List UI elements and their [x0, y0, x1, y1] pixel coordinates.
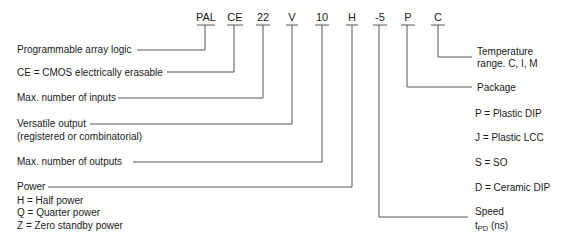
leader-ce: [167, 25, 234, 72]
tpd-unit: (ns): [488, 220, 508, 231]
code-inputs: 22: [257, 11, 269, 23]
label-speed-detail: tPD (ns): [475, 220, 508, 233]
code-temperature: C: [434, 11, 442, 23]
power-option-z: Z = Zero standby power: [17, 220, 124, 231]
leader-speed: [379, 25, 468, 217]
right-labels: Temperature range. C, I, M Package P = P…: [475, 46, 551, 233]
label-output-type: Versatile output: [17, 118, 86, 129]
part-code: PAL CE 22 V 10 H -5 P C: [196, 11, 442, 23]
tpd-subscript: PD: [478, 224, 489, 233]
code-speed: -5: [375, 11, 385, 23]
code-outputs: 10: [316, 11, 328, 23]
label-output-type-detail: (registered or combinatorial): [17, 131, 142, 142]
code-ce: CE: [227, 11, 242, 23]
label-power: Power: [17, 181, 46, 192]
code-package: P: [404, 11, 411, 23]
leader-pal: [137, 25, 205, 50]
code-output-type: V: [288, 11, 296, 23]
label-temperature-detail: range. C, I, M: [477, 58, 538, 69]
label-package: Package: [477, 82, 516, 93]
package-option-d: D = Ceramic DIP: [475, 182, 551, 193]
power-option-h: H = Half power: [17, 195, 84, 206]
label-speed: Speed: [475, 206, 504, 217]
package-option-j: J = Plastic LCC: [475, 132, 544, 143]
leader-temperature: [438, 25, 472, 57]
left-labels: Programmable array logic CE = CMOS elect…: [17, 44, 163, 231]
code-power: H: [348, 11, 356, 23]
package-option-s: S = SO: [475, 157, 508, 168]
leader-outputs: [133, 25, 322, 162]
power-option-q: Q = Quarter power: [17, 207, 101, 218]
label-outputs: Max. number of outputs: [17, 156, 122, 167]
pal-part-number-diagram: PAL CE 22 V 10 H -5 P C Programmable arr…: [0, 0, 566, 241]
leader-inputs: [118, 25, 263, 98]
label-temperature: Temperature: [477, 46, 534, 57]
package-option-p: P = Plastic DIP: [475, 108, 542, 119]
code-pal: PAL: [196, 11, 216, 23]
leader-package: [407, 25, 472, 87]
label-inputs: Max. number of inputs: [17, 92, 116, 103]
label-ce: CE = CMOS electrically erasable: [17, 67, 163, 78]
label-pal: Programmable array logic: [17, 44, 132, 55]
